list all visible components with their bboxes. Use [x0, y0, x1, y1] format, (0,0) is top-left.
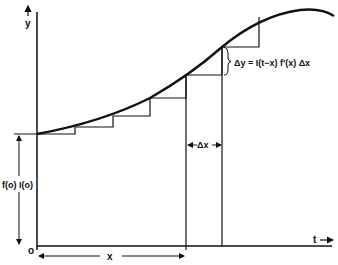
initial-value-label: f(o) I(o)	[2, 180, 33, 190]
delta-y-formula: Δy = I(t−x) f′(x) Δx	[234, 58, 310, 68]
origin-label: o	[28, 245, 34, 256]
y-axis-label: y	[25, 18, 31, 29]
staircase	[37, 17, 259, 134]
staircase-diagram: y t o Δx Δy = I(t−x) f′(x) Δx f(o) I(o) …	[0, 0, 338, 265]
y-axis: y	[25, 6, 37, 250]
x-dimension: x	[39, 251, 184, 262]
delta-x-label: Δx	[197, 140, 208, 150]
x-dimension-label: x	[107, 251, 113, 262]
t-axis: t	[37, 234, 333, 246]
delta-y-annotation: Δy = I(t−x) f′(x) Δx	[224, 47, 310, 75]
delta-x-dimension: Δx	[188, 140, 221, 150]
initial-value-dimension: f(o) I(o)	[2, 134, 37, 244]
t-axis-label: t	[313, 234, 317, 245]
